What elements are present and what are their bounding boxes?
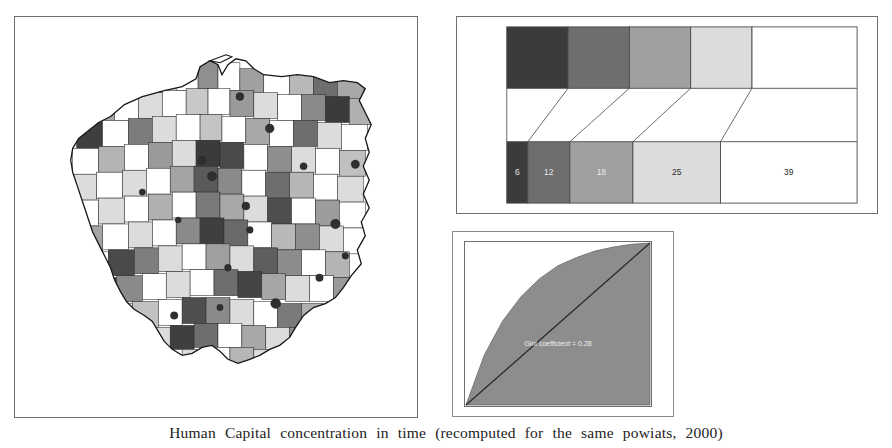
poland-choropleth-map <box>15 17 417 417</box>
legend-connector-3 <box>720 88 752 141</box>
legend-top-swatch-2 <box>629 27 690 88</box>
legend-panel: 6 12 18 25 39 <box>456 16 878 214</box>
legend-count-label-1: 12 <box>544 167 554 177</box>
legend-count-label-0: 6 <box>515 167 520 177</box>
map-stage <box>15 17 417 417</box>
legend-count-label-4: 39 <box>784 167 794 177</box>
map-units-layer <box>15 17 417 417</box>
lorenz-plot-area: Gini coefficient = 0.28 <box>464 241 652 407</box>
legend-count-label-2: 18 <box>597 167 607 177</box>
legend-connector-0 <box>528 88 568 141</box>
legend-count-label-3: 25 <box>672 167 682 177</box>
legend-top-swatch-3 <box>691 27 752 88</box>
legend-top-swatch-4 <box>752 27 857 88</box>
hel-peninsula <box>210 55 232 63</box>
gini-coefficient-label: Gini coefficient = 0.28 <box>524 340 591 347</box>
legend-connector-1 <box>570 88 630 141</box>
legend-top-swatch-0 <box>507 27 568 88</box>
legend-top-swatch-1 <box>568 27 629 88</box>
map-panel <box>14 16 418 418</box>
legend-connector-2 <box>633 88 691 141</box>
class-count-legend: 6 12 18 25 39 <box>457 17 877 213</box>
legend-top-row <box>507 27 857 88</box>
figure-root: 6 12 18 25 39 Gini coefficient = 0.28 Hu… <box>0 0 892 448</box>
lorenz-panel: Gini coefficient = 0.28 <box>452 231 674 417</box>
lorenz-curve-chart: Gini coefficient = 0.28 <box>465 242 651 406</box>
figure-caption: Human Capital concentration in time (rec… <box>0 424 892 442</box>
legend-bottom-row <box>507 142 857 203</box>
legend-connectors <box>507 88 857 141</box>
